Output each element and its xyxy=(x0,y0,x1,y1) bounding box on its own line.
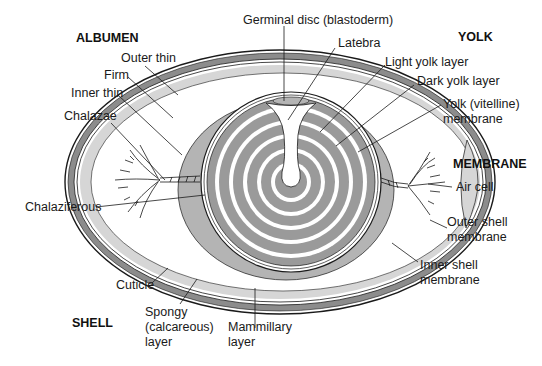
label-spongy-layer: Spongy (calcareous) layer xyxy=(145,305,217,349)
egg-structure-diagram: ALBUMEN YOLK MEMBRANE SHELL Outer thin F… xyxy=(0,0,542,366)
label-outer-thin: Outer thin xyxy=(121,51,176,65)
germinal-disc xyxy=(273,97,309,105)
label-outer-shell-membrane: Outer shell membrane xyxy=(447,215,511,244)
label-cuticle: Cuticle xyxy=(116,278,154,292)
header-shell: SHELL xyxy=(72,316,113,330)
header-membrane: MEMBRANE xyxy=(453,157,527,171)
label-light-yolk-layer: Light yolk layer xyxy=(385,55,468,69)
label-dark-yolk-layer: Dark yolk layer xyxy=(417,74,500,88)
label-inner-shell-membrane: Inner shell membrane xyxy=(420,258,481,287)
label-germinal-disc: Germinal disc (blastoderm) xyxy=(243,13,393,27)
label-firm: Firm xyxy=(104,68,129,82)
header-albumen: ALBUMEN xyxy=(76,31,139,45)
label-air-cell: Air cell xyxy=(456,180,494,194)
label-yolk-membrane: Yolk (vitelline) membrane xyxy=(443,97,523,126)
label-mammillary-layer: Mammillary layer xyxy=(228,320,295,349)
header-yolk: YOLK xyxy=(458,30,493,44)
label-chalazae: Chalazae xyxy=(64,109,117,123)
yolk xyxy=(201,92,381,272)
label-chalaziferous: Chalaziferous xyxy=(25,200,101,214)
label-inner-thin: Inner thin xyxy=(71,86,123,100)
label-latebra: Latebra xyxy=(338,36,380,50)
